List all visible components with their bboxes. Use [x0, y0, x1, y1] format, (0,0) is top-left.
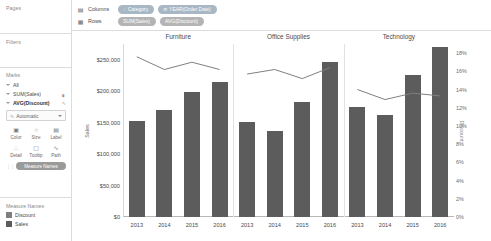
discount-line-technology[interactable] [357, 90, 440, 100]
measure-names-pill[interactable]: Measure Names [16, 162, 66, 170]
visualization[interactable]: Furniture Office Supplies Technology Sal… [72, 31, 491, 241]
year-tick: 2015 [399, 219, 427, 235]
pill-label: YEAR(Order Date) [169, 6, 211, 12]
chevron-down-icon [6, 102, 10, 104]
panel-headers: Furniture Office Supplies Technology [123, 33, 454, 44]
discount-axis-tick: 18% [456, 50, 467, 56]
legend-item-label: Sales [15, 221, 28, 227]
columns-shelf-label: Columns [88, 6, 114, 12]
sales-axis-tick: $150,000 [97, 120, 120, 126]
tableau-worksheet: Pages Filters Marks All SUM(Sales) ▖ AVG… [0, 0, 491, 241]
discount-axis-tick: 2% [456, 196, 464, 202]
chevron-down-icon [58, 115, 62, 117]
discount-axis: 0%2%4%6%8%10%12%14%16%18% Discount [454, 44, 474, 217]
year-ticks-office-supplies: 2013201420152016 [233, 219, 343, 235]
left-panel: Pages Filters Marks All SUM(Sales) ▖ AVG… [0, 0, 72, 241]
filters-shelf[interactable]: Filters [0, 34, 71, 68]
year-ticks-furniture: 2013201420152016 [123, 219, 233, 235]
plot-area[interactable] [123, 44, 454, 217]
mark-type-label: Automatic [16, 113, 38, 119]
mark-type-icon: ∿ [10, 113, 14, 119]
path-icon: ∿ [52, 143, 61, 152]
discount-axis-tick: 8% [456, 141, 464, 147]
discount-axis-tick: 16% [456, 68, 467, 74]
marks-button-size[interactable]: ○ Size [26, 124, 46, 141]
marks-row-label: SUM(Sales) [13, 91, 41, 97]
marks-button-tooltip[interactable]: ▢ Tooltip [26, 142, 46, 159]
year-tick: 2013 [123, 219, 151, 235]
marks-row-all[interactable]: All [6, 81, 66, 89]
marks-button-label: Path [51, 153, 60, 158]
marks-row-avg-discount[interactable]: AVG(Discount) ∿ [6, 99, 66, 107]
discount-axis-tick: 14% [456, 87, 467, 93]
year-tick: 2014 [261, 219, 289, 235]
discount-axis-tick: 12% [456, 105, 467, 111]
legend-item-sales[interactable]: Sales [6, 221, 66, 227]
panel-title-technology: Technology [344, 33, 454, 44]
year-ticks-technology: 2013201420152016 [344, 219, 454, 235]
discount-line-layer [123, 44, 454, 217]
sales-axis-tick: $100,000 [97, 151, 120, 157]
discount-line-furniture[interactable] [137, 57, 220, 70]
marks-row-label: All [13, 82, 19, 88]
color-icon: ▣ [12, 125, 21, 134]
marks-button-path[interactable]: ∿ Path [46, 142, 66, 159]
detail-icon: ∴ [12, 143, 21, 152]
pill-sum-sales[interactable]: SUM(Sales) [118, 17, 156, 26]
marks-row-sum-sales[interactable]: SUM(Sales) ▖ [6, 90, 66, 98]
columns-shelf[interactable]: ▤ Columns ∴ Category ⊞ YEAR(Order Date) [77, 4, 487, 14]
shelves-area: ▤ Columns ∴ Category ⊞ YEAR(Order Date) … [72, 0, 491, 31]
legend-title: Measure Names [6, 203, 66, 209]
marks-row-label: AVG(Discount) [13, 100, 50, 106]
pill-avg-discount[interactable]: AVG(Discount) [160, 17, 204, 26]
panel-divider [344, 44, 345, 217]
marks-button-label: Tooltip [29, 153, 42, 158]
year-tick: 2013 [344, 219, 372, 235]
marks-button-color[interactable]: ▣ Color [6, 124, 26, 141]
size-icon: ○ [32, 125, 41, 134]
rows-icon: ▦ [77, 18, 84, 25]
panel-title-furniture: Furniture [123, 33, 233, 44]
marks-card: Marks All SUM(Sales) ▖ AVG(Discount) ∿ ∿… [0, 68, 71, 197]
year-axis: 2013201420152016201320142015201620132014… [123, 219, 454, 235]
legend-swatch [6, 212, 12, 218]
legend-swatch [6, 221, 12, 227]
panel-divider [233, 44, 234, 217]
filters-shelf-label: Filters [6, 39, 66, 45]
year-tick: 2016 [316, 219, 344, 235]
sales-axis-tick: $250,000 [97, 57, 120, 63]
marks-button-label: Detail [10, 153, 22, 158]
chevron-down-icon [6, 93, 10, 95]
line-mark-icon: ∿ [62, 100, 66, 106]
marks-button-label: Color [11, 135, 22, 140]
legend-item-discount[interactable]: Discount [6, 212, 66, 218]
mark-type-selector[interactable]: ∿ Automatic [6, 110, 66, 121]
discount-axis-tick: 4% [456, 178, 464, 184]
rows-shelf-label: Rows [88, 18, 114, 24]
dimension-icon: ∴ [123, 7, 126, 12]
pages-shelf[interactable]: Pages [0, 0, 71, 34]
marks-buttons: ▣ Color ○ Size ▤ Label ∴ Detail ▢ Tool [6, 124, 66, 159]
date-icon: ⊞ [163, 7, 167, 12]
marks-button-label[interactable]: ▤ Label [46, 124, 66, 141]
year-tick: 2015 [178, 219, 206, 235]
pill-label: SUM(Sales) [123, 18, 150, 24]
discount-axis-tick: 6% [456, 159, 464, 165]
pill-label: Category [128, 6, 148, 12]
measure-names-pill-row: ⋮⋮ Measure Names [6, 162, 66, 170]
pill-category[interactable]: ∴ Category [118, 5, 154, 14]
sales-axis-tick: $200,000 [97, 88, 120, 94]
discount-line-office-supplies[interactable] [247, 68, 330, 79]
marks-button-detail[interactable]: ∴ Detail [6, 142, 26, 159]
marks-button-label: Label [50, 135, 61, 140]
bar-mark-icon: ▖ [62, 91, 66, 97]
rows-shelf[interactable]: ▦ Rows SUM(Sales) AVG(Discount) [77, 16, 487, 26]
chevron-down-icon [6, 84, 10, 86]
pill-year-order-date[interactable]: ⊞ YEAR(Order Date) [158, 5, 217, 14]
discount-axis-tick: 0% [456, 214, 464, 220]
marks-card-title: Marks [6, 72, 66, 78]
sales-axis: Sales $0$50,000$100,000$150,000$200,000$… [80, 44, 121, 217]
drag-handle-icon[interactable]: ⋮⋮ [6, 163, 14, 169]
tooltip-icon: ▢ [32, 143, 41, 152]
main-area: ▤ Columns ∴ Category ⊞ YEAR(Order Date) … [72, 0, 491, 241]
